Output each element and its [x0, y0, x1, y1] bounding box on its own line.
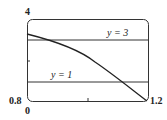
function-curve	[27, 34, 147, 101]
annotation-y3: y = 3	[107, 28, 128, 38]
y-min-label: 0.8	[9, 96, 22, 106]
plot-area	[0, 0, 167, 120]
annotation-y1: y = 1	[51, 70, 72, 80]
x-max-label: 1.2	[150, 96, 163, 106]
x-min-label: 0	[25, 106, 30, 116]
plot-frame	[28, 20, 149, 102]
y-max-label: 4	[25, 7, 30, 17]
